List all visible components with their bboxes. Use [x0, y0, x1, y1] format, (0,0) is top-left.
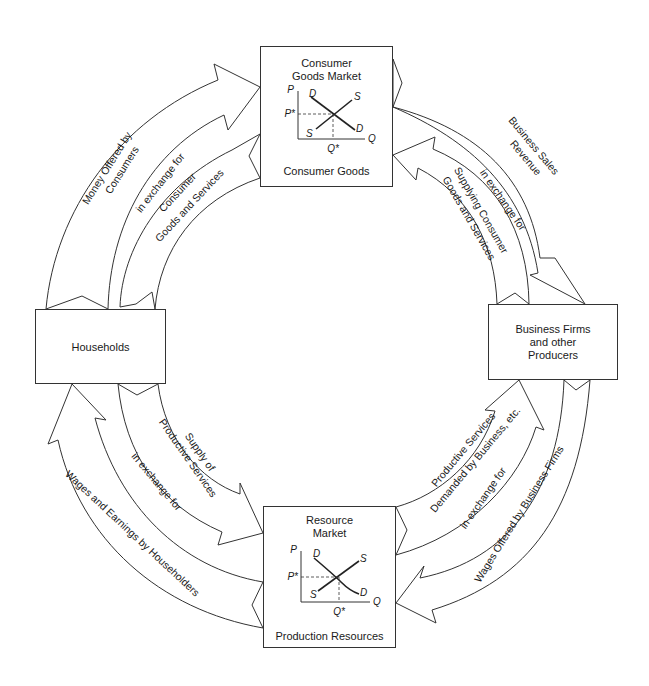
supply-label-bottom: S	[310, 589, 317, 600]
households-box: Households	[35, 309, 166, 384]
demand-label-top: D	[313, 548, 320, 559]
consumer-goods-caption: Consumer Goods	[261, 165, 392, 178]
consumer-goods-market-title-1: Consumer	[261, 57, 392, 70]
p-axis-label: P	[290, 545, 297, 555]
resource-market-title-2: Market	[264, 527, 395, 540]
demand-label-top: D	[309, 88, 316, 99]
q-axis-label: Q	[373, 596, 381, 607]
business-firms-label-2: and other	[489, 335, 617, 349]
production-resources-caption: Production Resources	[264, 630, 395, 643]
supply-label-top: S	[354, 91, 361, 102]
demand-label-bottom: D	[356, 123, 363, 134]
q-equilibrium-label: Q*	[333, 606, 346, 617]
supply-label-top: S	[360, 553, 367, 564]
p-equilibrium-label: P*	[284, 108, 296, 119]
q-axis-label: Q	[368, 133, 376, 144]
supply-demand-chart-resource: P D S P* S D Q Q*	[264, 545, 397, 623]
supply-label-bottom: S	[306, 128, 313, 139]
q-equilibrium-label: Q*	[327, 143, 340, 154]
consumer-goods-market-title-2: Goods Market	[261, 70, 392, 83]
households-label: Households	[36, 340, 165, 354]
p-axis-label: P	[287, 85, 294, 95]
supply-demand-chart-consumer: P D S P* S D Q Q*	[261, 85, 394, 163]
business-firms-label-1: Business Firms	[489, 322, 617, 336]
p-equilibrium-label: P*	[287, 571, 299, 582]
consumer-goods-market-box: Consumer Goods Market P D S P* S D Q Q* …	[260, 46, 393, 187]
demand-label-bottom: D	[360, 587, 367, 598]
business-firms-label-3: Producers	[489, 348, 617, 362]
business-firms-box: Business Firms and other Producers	[488, 304, 618, 380]
resource-market-box: Resource Market P D S P* S D Q Q* Produc…	[263, 506, 396, 648]
resource-market-title-1: Resource	[264, 514, 395, 527]
